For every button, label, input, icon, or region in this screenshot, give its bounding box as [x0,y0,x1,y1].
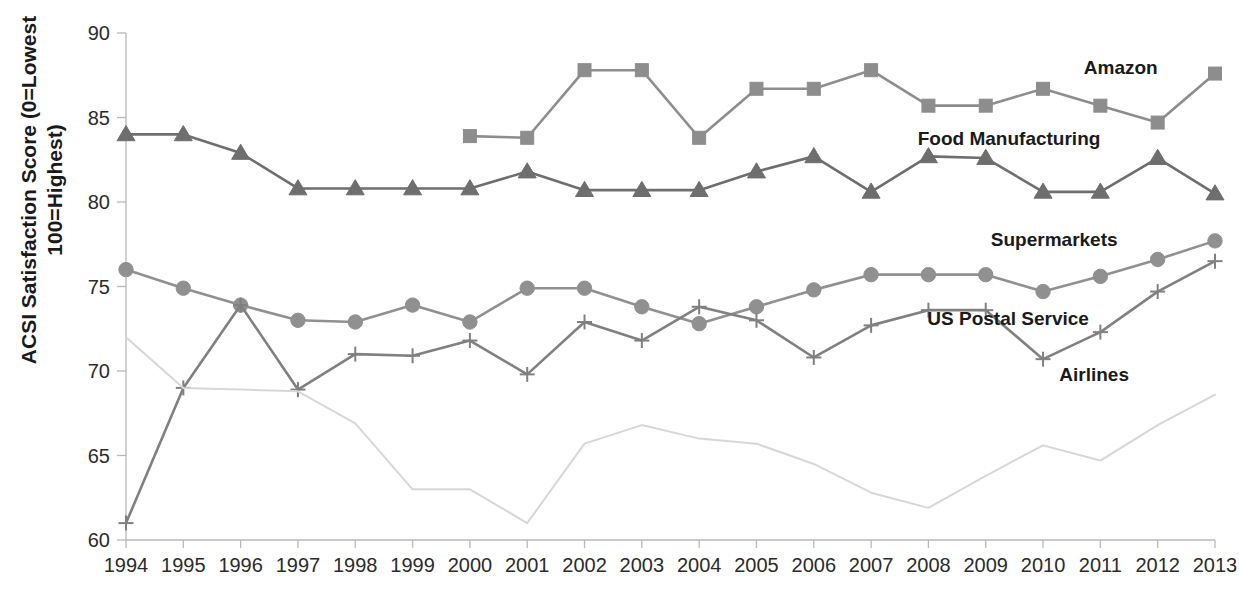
x-tick-label: 2003 [620,554,665,576]
data-point-marker [577,281,591,295]
data-point-marker [1036,284,1050,298]
data-point-marker [1209,67,1222,80]
data-point-marker [635,64,648,77]
data-point-marker [405,348,420,363]
data-point-marker [807,283,821,297]
x-tick-label: 2013 [1193,554,1238,576]
series-airlines [126,337,1215,523]
data-point-marker [348,347,363,362]
data-point-marker [119,516,134,531]
plot-area: 60657075808590 1994199519961997199819992… [0,0,1239,603]
axis-lines [126,33,1215,540]
data-point-marker [805,148,823,163]
data-point-marker [692,299,707,314]
data-point-marker [1208,234,1222,248]
series-label-supermarkets: Supermarkets [991,229,1118,250]
data-point-marker [749,313,764,328]
y-tick-label: 75 [88,276,110,298]
x-tick-label: 2000 [448,554,493,576]
data-point-marker [463,315,477,329]
y-tick-label: 60 [88,529,110,551]
series-label-food-manufacturing: Food Manufacturing [918,128,1101,149]
data-point-marker [1150,252,1164,266]
data-point-marker [750,82,763,95]
x-tick-label: 2009 [963,554,1008,576]
data-point-marker [520,281,534,295]
data-point-marker [578,64,591,77]
data-point-marker [865,64,878,77]
x-tick-label: 2008 [906,554,951,576]
data-point-marker [348,315,362,329]
x-axis-tick-group: 1994199519961997199819992000200120022003… [104,540,1238,576]
x-tick-label: 2012 [1135,554,1180,576]
data-point-marker [979,99,992,112]
x-tick-label: 1995 [161,554,206,576]
x-tick-label: 2011 [1079,554,1122,576]
data-point-marker [119,262,133,276]
x-tick-label: 1997 [276,554,321,576]
series-label-amazon: Amazon [1084,57,1158,78]
series-line [126,337,1215,523]
x-tick-label: 2002 [562,554,607,576]
data-point-marker [693,131,706,144]
y-tick-label: 70 [88,360,110,382]
x-tick-label: 1999 [390,554,435,576]
data-point-marker [1208,254,1223,269]
data-point-marker [1149,149,1167,164]
data-point-marker [462,333,477,348]
data-point-marker [979,267,993,281]
y-axis-tick-group: 60657075808590 [88,22,126,551]
x-tick-label: 1998 [333,554,378,576]
series-label-airlines: Airlines [1059,364,1129,385]
data-point-marker [634,333,649,348]
y-tick-label: 65 [88,445,110,467]
acsi-satisfaction-line-chart: ACSI Satisfaction Score (0=Lowest 100=Hi… [0,0,1239,603]
data-point-marker [806,350,821,365]
data-point-marker [291,313,305,327]
data-point-marker [922,99,935,112]
series-line [126,261,1215,523]
x-tick-label: 1996 [218,554,263,576]
x-tick-label: 2005 [734,554,779,576]
data-point-marker [518,163,536,178]
data-point-marker [749,300,763,314]
x-tick-label: 2004 [677,554,722,576]
data-point-marker [919,148,937,163]
data-point-marker [521,131,534,144]
x-tick-label: 2006 [792,554,837,576]
data-point-marker [1093,269,1107,283]
data-point-marker [463,130,476,143]
data-point-marker [405,298,419,312]
data-point-marker [807,82,820,95]
data-point-marker [864,318,879,333]
data-point-marker [635,300,649,314]
data-point-marker [692,316,706,330]
x-tick-label: 2001 [505,554,550,576]
series-label-us-postal-service: US Postal Service [927,308,1089,329]
data-point-marker [864,267,878,281]
x-tick-label: 1994 [104,554,149,576]
y-tick-label: 80 [88,191,110,213]
data-point-marker [862,183,880,198]
data-point-marker [921,267,935,281]
data-point-marker [1151,116,1164,129]
data-point-marker [176,281,190,295]
x-tick-label: 2007 [849,554,894,576]
series-us-postal-service [119,254,1223,531]
x-tick-label: 2010 [1021,554,1066,576]
y-tick-label: 90 [88,22,110,44]
y-tick-label: 85 [88,107,110,129]
data-point-marker [1094,99,1107,112]
data-point-marker [1037,82,1050,95]
data-point-marker [1206,185,1224,200]
